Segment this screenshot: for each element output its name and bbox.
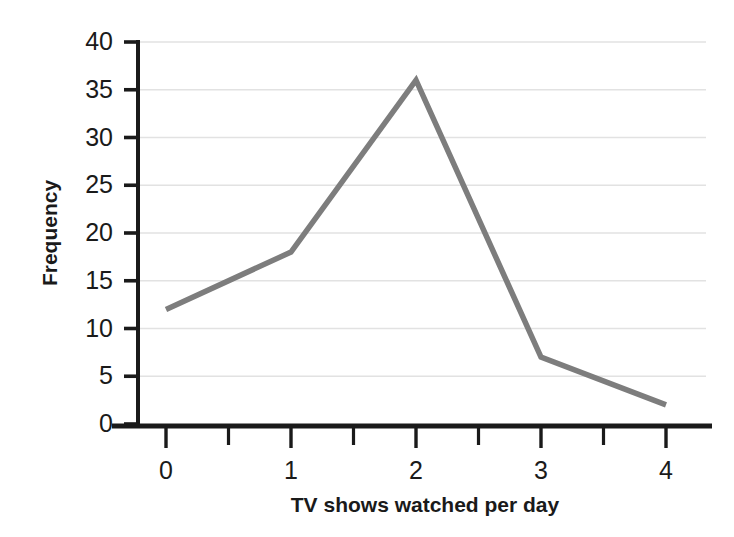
- x-tick-label: 1: [284, 456, 298, 484]
- y-tick-label: 30: [85, 123, 113, 151]
- x-tick-label: 2: [409, 456, 423, 484]
- y-tick-label: 20: [85, 218, 113, 246]
- y-tick-label: 10: [85, 314, 113, 342]
- x-tick-label: 4: [659, 456, 673, 484]
- line-chart: 0510152025303540 01234 TV shows watched …: [0, 0, 734, 537]
- y-tick-label: 15: [85, 266, 113, 294]
- chart-container: 0510152025303540 01234 TV shows watched …: [0, 0, 734, 537]
- y-tick-label: 40: [85, 27, 113, 55]
- y-tick-label: 35: [85, 75, 113, 103]
- y-tick-label: 25: [85, 170, 113, 198]
- y-axis-title: Frequency: [38, 180, 61, 287]
- x-tick-label: 3: [534, 456, 548, 484]
- x-axis-title: TV shows watched per day: [291, 493, 560, 516]
- y-tick-label: 0: [99, 409, 113, 437]
- x-tick-label: 0: [159, 456, 173, 484]
- y-tick-label: 5: [99, 361, 113, 389]
